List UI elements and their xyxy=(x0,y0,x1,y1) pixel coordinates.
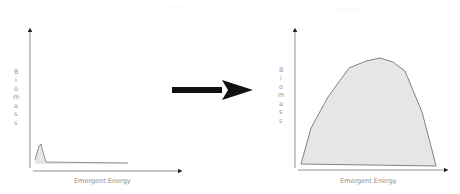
svg-text:a: a xyxy=(14,102,18,110)
left-x-axis-label: Emergent Energy xyxy=(74,177,131,185)
svg-text:o: o xyxy=(279,83,283,91)
svg-text:s: s xyxy=(14,119,18,127)
left-curve-line xyxy=(35,144,128,163)
left-y-axis-label: B i o m a s s xyxy=(13,68,19,127)
right-y-axis-label: B i o m a s s xyxy=(278,66,284,125)
svg-text:B: B xyxy=(279,66,283,74)
right-chart-panel: B i o m a s s Emergent Energy xyxy=(278,30,446,185)
svg-text:m: m xyxy=(13,93,19,101)
svg-text:s: s xyxy=(14,110,18,118)
svg-text:o: o xyxy=(14,85,18,93)
svg-text:B: B xyxy=(14,68,18,76)
faint-title-right: ~ ~ ~ xyxy=(338,5,360,13)
svg-text:m: m xyxy=(278,91,284,99)
biomass-diagram: ~ ~ ~ ~ ~ ~ B i o m a s s Emergent Energ… xyxy=(0,0,460,194)
svg-text:i: i xyxy=(15,76,17,84)
transition-arrow-icon xyxy=(172,80,253,100)
right-curve xyxy=(301,58,436,166)
faint-title-left: ~ ~ ~ xyxy=(168,4,190,12)
left-chart-panel: B i o m a s s Emergent Energy xyxy=(13,30,180,185)
svg-text:a: a xyxy=(279,100,283,108)
svg-text:i: i xyxy=(280,74,282,82)
svg-text:s: s xyxy=(279,117,283,125)
right-x-axis-label: Emergent Energy xyxy=(340,177,397,185)
left-curve-fill xyxy=(35,144,128,164)
svg-text:s: s xyxy=(279,108,283,116)
